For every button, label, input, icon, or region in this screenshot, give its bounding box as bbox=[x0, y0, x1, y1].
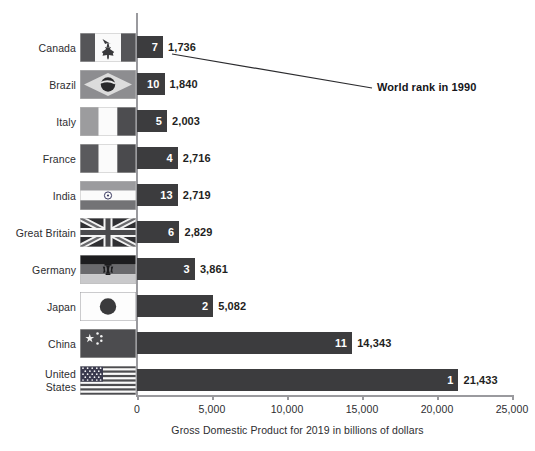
value-label: 21,433 bbox=[463, 369, 497, 391]
table-row: Italy 52,003 bbox=[0, 103, 535, 140]
rank-badge: 4 bbox=[166, 147, 172, 169]
country-label: India bbox=[0, 177, 76, 214]
x-axis-tick bbox=[287, 395, 289, 400]
value-label: 2,719 bbox=[183, 184, 211, 206]
country-label: China bbox=[0, 325, 76, 362]
rank-badge: 5 bbox=[156, 110, 162, 132]
x-axis-tick bbox=[137, 395, 139, 400]
bar: 4 bbox=[137, 147, 178, 169]
rank-badge: 7 bbox=[152, 36, 158, 58]
country-label: Brazil bbox=[0, 66, 76, 103]
flag-canada-icon bbox=[80, 33, 136, 62]
value-label: 1,736 bbox=[168, 36, 196, 58]
annotation-label: World rank in 1990 bbox=[377, 81, 476, 93]
flag-china-icon bbox=[80, 329, 136, 358]
value-label: 2,716 bbox=[183, 147, 211, 169]
flag-italy-icon bbox=[80, 107, 136, 136]
bar: 13 bbox=[137, 184, 178, 206]
rank-badge: 13 bbox=[160, 184, 173, 206]
value-label: 2,829 bbox=[184, 221, 212, 243]
table-row: Germany 33,861 bbox=[0, 251, 535, 288]
country-label: Japan bbox=[0, 288, 76, 325]
table-row: UnitedStates 121,433 bbox=[0, 362, 535, 399]
flag-united-states-icon bbox=[80, 366, 136, 395]
bar: 3 bbox=[137, 258, 195, 280]
value-label: 3,861 bbox=[200, 258, 228, 280]
bar: 7 bbox=[137, 36, 163, 58]
bar: 1 bbox=[137, 369, 458, 391]
flag-india-icon bbox=[80, 181, 136, 210]
country-label: Italy bbox=[0, 103, 76, 140]
bar: 11 bbox=[137, 332, 352, 354]
flag-france-icon bbox=[80, 144, 136, 173]
country-label: France bbox=[0, 140, 76, 177]
rank-badge: 1 bbox=[447, 369, 453, 391]
bar: 2 bbox=[137, 295, 213, 317]
bar: 6 bbox=[137, 221, 179, 243]
rank-badge: 10 bbox=[147, 73, 160, 95]
plot-area: Canada 71,736Brazil 101,840Italy 52,003F… bbox=[0, 0, 535, 451]
x-axis-tick-label: 5,000 bbox=[199, 403, 226, 415]
x-axis-tick bbox=[437, 395, 439, 400]
table-row: Canada 71,736 bbox=[0, 29, 535, 66]
country-label: Germany bbox=[0, 251, 76, 288]
x-axis-title: Gross Domestic Product for 2019 in billi… bbox=[0, 424, 535, 436]
rank-badge: 2 bbox=[202, 295, 208, 317]
x-axis-tick-label: 10,000 bbox=[271, 403, 304, 415]
table-row: China 1114,343 bbox=[0, 325, 535, 362]
x-axis-title-text: Gross Domestic Product for 2019 in billi… bbox=[171, 424, 423, 436]
rank-badge: 6 bbox=[168, 221, 174, 243]
table-row: Japan 25,082 bbox=[0, 288, 535, 325]
country-label: Great Britain bbox=[0, 214, 76, 251]
table-row: Great Britain 62,829 bbox=[0, 214, 535, 251]
x-axis-tick bbox=[512, 395, 514, 400]
x-axis-tick bbox=[212, 395, 214, 400]
x-axis-tick bbox=[362, 395, 364, 400]
flag-great-britain-icon bbox=[80, 218, 136, 247]
table-row: India 132,719 bbox=[0, 177, 535, 214]
x-axis-tick-label: 15,000 bbox=[346, 403, 379, 415]
rank-badge: 11 bbox=[335, 332, 347, 354]
flag-germany-icon bbox=[80, 255, 136, 284]
value-label: 1,840 bbox=[170, 73, 198, 95]
value-label: 5,082 bbox=[218, 295, 246, 317]
x-axis-tick-label: 0 bbox=[134, 403, 140, 415]
flag-japan-icon bbox=[80, 292, 136, 321]
rank-badge: 3 bbox=[184, 258, 190, 280]
country-label: UnitedStates bbox=[0, 362, 76, 399]
value-label: 14,343 bbox=[357, 332, 391, 354]
value-label: 2,003 bbox=[172, 110, 200, 132]
x-axis-tick-label: 25,000 bbox=[496, 403, 529, 415]
bar: 10 bbox=[137, 73, 165, 95]
x-axis-tick-label: 20,000 bbox=[421, 403, 454, 415]
bar: 5 bbox=[137, 110, 167, 132]
gdp-bar-chart: Canada 71,736Brazil 101,840Italy 52,003F… bbox=[0, 0, 535, 451]
table-row: France 42,716 bbox=[0, 140, 535, 177]
country-label: Canada bbox=[0, 29, 76, 66]
flag-brazil-icon bbox=[80, 70, 136, 99]
